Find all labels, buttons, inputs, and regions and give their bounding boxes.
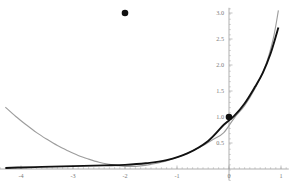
series-black-curve bbox=[5, 28, 278, 168]
x-tick-label: 1 bbox=[279, 172, 282, 179]
y-tick-label: 1.0 bbox=[216, 113, 224, 120]
plot-canvas: -4-3-2-101 0.51.01.52.02.53.0 bbox=[0, 0, 302, 188]
y-tick-label: 0.5 bbox=[216, 139, 224, 146]
y-tick-label: 2.5 bbox=[216, 35, 224, 42]
x-tick-label: -4 bbox=[18, 172, 23, 179]
upper-point bbox=[122, 10, 129, 17]
series-gray-curve bbox=[5, 10, 278, 166]
y-tick-label: 1.5 bbox=[216, 87, 224, 94]
y-tick-label: 3.0 bbox=[216, 9, 224, 16]
x-tick-label: -1 bbox=[174, 172, 179, 179]
x-tick-label: 0 bbox=[227, 172, 230, 179]
x-tick-label: -3 bbox=[70, 172, 75, 179]
y-tick-label: 2.0 bbox=[216, 61, 224, 68]
origin-point bbox=[226, 114, 233, 121]
chart-figure: -4-3-2-101 0.51.01.52.02.53.0 bbox=[0, 0, 302, 188]
x-tick-label: -2 bbox=[122, 172, 127, 179]
x-axis-tick-labels: -4-3-2-101 bbox=[18, 172, 282, 179]
